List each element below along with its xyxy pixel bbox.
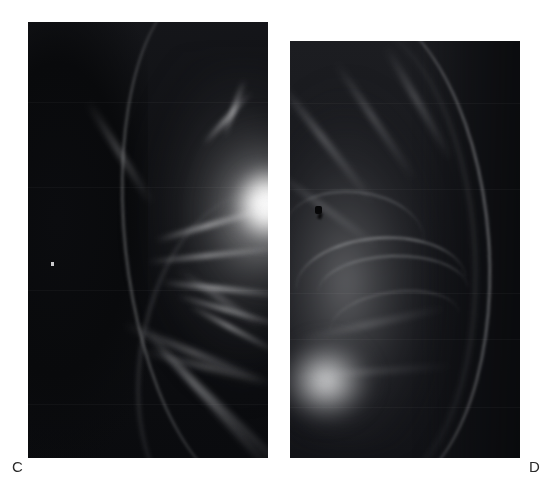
panel-label-d: D [529, 459, 540, 474]
panel-c-scan-seam [28, 102, 268, 103]
mammogram-panel-d[interactable] [290, 41, 520, 458]
mammogram-panel-c[interactable] [28, 22, 268, 458]
panel-d-scan-seam [290, 293, 520, 294]
panel-c-bright-dot-artifact [51, 262, 54, 266]
panel-d-scan-seam [290, 189, 520, 190]
panel-c-scan-seam [28, 290, 268, 291]
panel-label-c: C [12, 459, 23, 474]
panel-d-scan-seam [290, 407, 520, 408]
panel-c-scan-seam [28, 187, 268, 188]
figure-root: C D [0, 0, 554, 499]
panel-d-scan-seam [290, 339, 520, 340]
panel-d-scan-seam [290, 103, 520, 104]
panel-c-scan-seam [28, 404, 268, 405]
